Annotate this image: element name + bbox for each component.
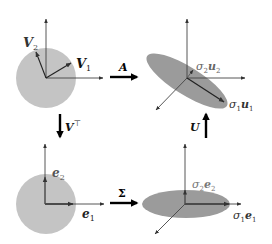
label-v1: V1 xyxy=(76,56,91,73)
svd-diagram: V2 V1 A σ2u2 σ1u1 V⊤ U e2 e1 xyxy=(0,0,272,244)
label-e2: e2 xyxy=(52,166,65,182)
label-u: U xyxy=(190,121,201,134)
label-s2e2: σ2e2 xyxy=(192,178,215,193)
panel-bottom-left: e2 e1 xyxy=(16,144,104,234)
label-s1u1: σ1u1 xyxy=(229,98,253,113)
label-sigma: Σ xyxy=(118,187,126,200)
label-s2u2: σ2u2 xyxy=(196,60,220,75)
transform-u-arrow: U xyxy=(190,114,206,138)
label-s1e1: σ1e1 xyxy=(233,209,256,224)
label-e1: e1 xyxy=(82,207,95,223)
label-vt: V⊤ xyxy=(65,119,81,134)
label-v2: V2 xyxy=(23,35,38,52)
transform-sigma-arrow: Σ xyxy=(110,187,137,203)
label-a: A xyxy=(118,61,128,74)
transform-a-arrow: A xyxy=(110,61,137,77)
panel-bottom-right: σ2e2 σ1e1 xyxy=(142,144,256,234)
svd-diagram-canvas: V2 V1 A σ2u2 σ1u1 V⊤ U e2 e1 xyxy=(0,0,272,244)
transform-vt-arrow: V⊤ xyxy=(60,114,81,137)
panel-top-left: V2 V1 xyxy=(16,19,103,108)
panel-top-right: σ2u2 σ1u1 xyxy=(140,19,254,118)
